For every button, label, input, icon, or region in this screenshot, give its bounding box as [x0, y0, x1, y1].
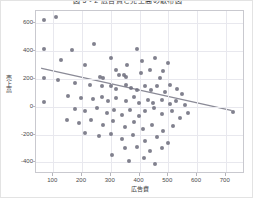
- scatter-point: [110, 153, 114, 157]
- scatter-point: [123, 146, 127, 150]
- x-tick-label: 500: [152, 177, 182, 184]
- scatter-point: [92, 42, 96, 46]
- scatter-point: [140, 59, 144, 63]
- scatter-point: [65, 118, 69, 122]
- scatter-point: [160, 146, 164, 150]
- gridline-vertical: [226, 11, 227, 172]
- scatter-point: [180, 92, 184, 96]
- scatter-point: [73, 107, 77, 111]
- scatter-point: [101, 76, 105, 80]
- scatter-point: [114, 87, 118, 91]
- scatter-point: [112, 108, 116, 112]
- y-tick-label: 600: [3, 19, 33, 25]
- scatter-point: [161, 69, 165, 73]
- scatter-point: [166, 61, 170, 65]
- x-tick-label: 100: [37, 177, 67, 184]
- scatter-point: [109, 84, 113, 88]
- scatter-point: [160, 98, 164, 102]
- scatter-point: [170, 109, 174, 113]
- scatter-point: [128, 108, 132, 112]
- y-tick-label: -200: [3, 131, 33, 137]
- scatter-point: [59, 58, 63, 62]
- scatter-point: [163, 90, 167, 94]
- y-axis-title: 売上高: [4, 75, 11, 93]
- scatter-point: [100, 95, 104, 99]
- scatter-point: [174, 99, 178, 103]
- plot-area: [35, 10, 244, 173]
- y-tick-label: -400: [3, 158, 33, 164]
- x-tick-mark: [196, 173, 197, 176]
- scatter-point: [186, 111, 190, 115]
- scatter-point: [132, 95, 136, 99]
- scatter-point: [158, 76, 162, 80]
- x-tick-label: 400: [124, 177, 154, 184]
- scatter-point: [105, 111, 109, 115]
- scatter-point: [150, 123, 154, 127]
- scatter-point: [152, 106, 156, 110]
- x-tick-mark: [110, 173, 111, 176]
- scatter-point: [125, 63, 129, 67]
- x-tick-mark: [52, 173, 53, 176]
- scatter-point: [139, 71, 143, 75]
- scatter-point: [151, 101, 155, 105]
- x-tick-mark: [167, 173, 168, 176]
- scatter-chart-figure: 図 5 - 2 広告費と売上高の散布図 6004002000-200-400 売…: [0, 0, 253, 198]
- scatter-point: [83, 109, 87, 113]
- x-tick-label: 200: [66, 177, 96, 184]
- scatter-point: [129, 86, 133, 90]
- scatter-point: [135, 47, 139, 51]
- scatter-point: [142, 156, 146, 160]
- scatter-point: [146, 98, 150, 102]
- x-tick-label: 600: [181, 177, 211, 184]
- scatter-point: [135, 145, 139, 149]
- scatter-point: [101, 123, 105, 127]
- scatter-point: [168, 83, 172, 87]
- scatter-point: [117, 73, 121, 77]
- scatter-point: [42, 100, 46, 104]
- scatter-point: [73, 81, 77, 85]
- scatter-point: [83, 63, 87, 67]
- gridline-vertical: [197, 11, 198, 172]
- scatter-point: [155, 84, 159, 88]
- scatter-point: [123, 125, 127, 129]
- scatter-point: [143, 139, 147, 143]
- scatter-point: [124, 99, 128, 103]
- scatter-point: [109, 56, 113, 60]
- scatter-point: [143, 84, 147, 88]
- scatter-point: [143, 109, 147, 113]
- x-tick-mark: [139, 173, 140, 176]
- scatter-point: [155, 135, 159, 139]
- scatter-point: [109, 132, 113, 136]
- scatter-point: [160, 112, 164, 116]
- scatter-point: [153, 162, 157, 166]
- scatter-point: [175, 87, 179, 91]
- scatter-point: [42, 76, 46, 80]
- scatter-point: [168, 102, 172, 106]
- gridline-vertical: [82, 11, 83, 172]
- scatter-point: [137, 114, 141, 118]
- scatter-point: [141, 127, 145, 131]
- chart-title: 図 5 - 2 広告費と売上高の散布図: [1, 0, 253, 5]
- scatter-point: [54, 15, 58, 19]
- scatter-point: [56, 78, 60, 82]
- scatter-point: [66, 94, 70, 98]
- scatter-point: [171, 124, 175, 128]
- scatter-point: [153, 56, 157, 60]
- scatter-point: [120, 137, 124, 141]
- scatter-point: [95, 106, 99, 110]
- scatter-point: [124, 83, 128, 87]
- scatter-point: [42, 18, 46, 22]
- x-tick-mark: [225, 173, 226, 176]
- scatter-point: [120, 113, 124, 117]
- gridline-vertical: [53, 11, 54, 172]
- x-tick-label: 300: [95, 177, 125, 184]
- scatter-point: [114, 68, 118, 72]
- scatter-point: [88, 83, 92, 87]
- gridline-vertical: [168, 11, 169, 172]
- gridline-vertical: [140, 11, 141, 172]
- scatter-point: [132, 120, 136, 124]
- gridline-vertical: [111, 11, 112, 172]
- scatter-point: [148, 149, 152, 153]
- scatter-point: [100, 84, 104, 88]
- x-tick-label: 700: [210, 177, 240, 184]
